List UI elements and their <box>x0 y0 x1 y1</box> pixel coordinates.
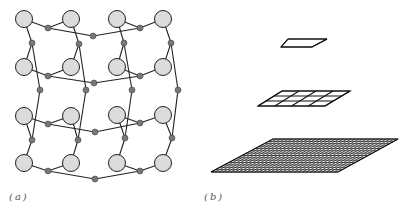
large-node <box>109 107 126 124</box>
small-node <box>175 87 181 93</box>
large-node <box>16 155 33 172</box>
grid-outline <box>281 39 327 47</box>
edge <box>32 43 40 90</box>
small-node <box>137 25 143 31</box>
small-node <box>121 40 127 46</box>
small-node <box>137 120 143 126</box>
small-node <box>168 40 174 46</box>
large-node <box>109 155 126 172</box>
small-node <box>169 135 175 141</box>
large-node <box>16 59 33 76</box>
edge <box>48 124 95 132</box>
large-node <box>155 11 172 28</box>
large-node <box>63 11 80 28</box>
edge <box>32 90 40 140</box>
edge <box>79 44 86 90</box>
small-node <box>83 87 89 93</box>
small-node <box>122 135 128 141</box>
large-node <box>109 59 126 76</box>
large-node <box>16 108 33 125</box>
large-node <box>63 155 80 172</box>
small-node <box>137 168 143 174</box>
small-node <box>129 87 135 93</box>
small-node <box>45 121 51 127</box>
small-node <box>29 40 35 46</box>
network-edges <box>24 19 178 179</box>
small-node <box>45 25 51 31</box>
small-node <box>137 73 143 79</box>
edge <box>172 90 178 138</box>
large-node <box>63 108 80 125</box>
edge <box>48 76 94 83</box>
small-node <box>29 137 35 143</box>
large-node <box>109 11 126 28</box>
small-node <box>91 80 97 86</box>
panel-b-label: (b) <box>204 191 224 202</box>
edge <box>93 28 140 36</box>
large-node <box>155 155 172 172</box>
panel-a-label: (a) <box>9 191 29 202</box>
edge <box>95 171 140 179</box>
grid-layer-bottom <box>211 139 398 172</box>
panel-b-grids <box>211 39 398 172</box>
small-node <box>92 176 98 182</box>
large-node <box>155 59 172 76</box>
small-node <box>75 137 81 143</box>
large-node <box>155 107 172 124</box>
small-node <box>37 87 43 93</box>
edge <box>171 43 178 90</box>
edge <box>94 76 140 83</box>
small-node <box>90 33 96 39</box>
large-node <box>63 59 80 76</box>
edge <box>125 90 132 138</box>
edge <box>95 123 140 132</box>
edge <box>48 28 93 36</box>
figure <box>0 0 408 212</box>
small-node <box>45 168 51 174</box>
grid-layer-middle <box>258 91 350 106</box>
small-node <box>45 73 51 79</box>
large-node <box>16 11 33 28</box>
edge <box>48 171 95 179</box>
small-node <box>92 129 98 135</box>
grid-layer-top <box>281 39 327 47</box>
small-node <box>76 41 82 47</box>
panel-a-network <box>16 11 182 183</box>
